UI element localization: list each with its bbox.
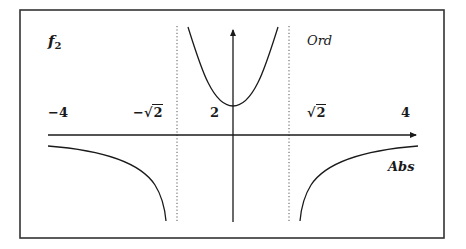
tick-label-neg-four: −4 [48, 106, 68, 119]
tick-label-four: 4 [401, 106, 410, 119]
radical-icon: √ [307, 105, 316, 120]
neg-sign: − [133, 105, 144, 120]
radical-icon: √ [144, 105, 153, 120]
tick-label-sqrt2: √2 [307, 104, 326, 119]
curve-right-branch [300, 146, 418, 221]
y-axis-label: Ord [307, 34, 332, 47]
sqrt-symbol: √2 [307, 104, 326, 119]
function-subscript: 2 [54, 40, 61, 51]
radicand: 2 [152, 104, 162, 119]
function-label: f2 [48, 34, 61, 51]
curve-left-branch [48, 146, 166, 221]
x-axis-label: Abs [388, 160, 415, 173]
tick-label-two: 2 [210, 106, 219, 119]
sqrt-symbol: √2 [144, 104, 163, 119]
radicand: 2 [316, 104, 326, 119]
graph-frame [20, 10, 444, 238]
function-graph [0, 0, 466, 249]
tick-label-neg-sqrt2: −√2 [133, 104, 163, 119]
